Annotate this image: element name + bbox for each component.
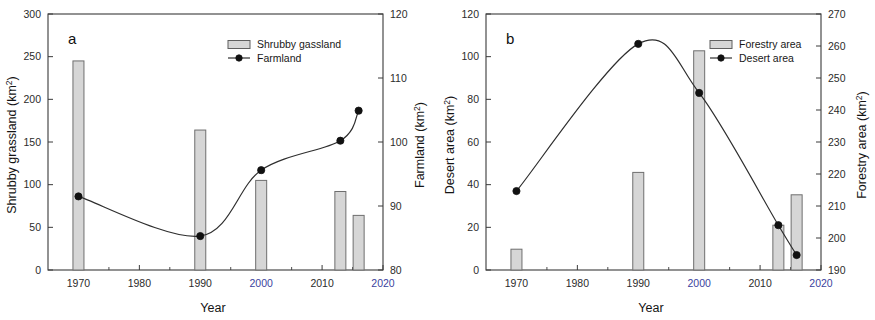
data-point-marker bbox=[513, 187, 520, 194]
x-tick-label: 1970 bbox=[505, 277, 529, 289]
x-tick-label: 1990 bbox=[189, 277, 213, 289]
legend-marker-desert-area bbox=[718, 55, 724, 61]
left-tick-label: 100 bbox=[461, 50, 479, 62]
right-tick-label: 230 bbox=[828, 136, 846, 148]
x-tick-label: 2020 bbox=[809, 277, 833, 289]
left-tick-label: 250 bbox=[23, 50, 41, 62]
panel-letter-b: b bbox=[506, 30, 514, 47]
data-point-marker bbox=[75, 193, 82, 200]
data-point-marker bbox=[775, 222, 782, 229]
panel-a-axes bbox=[48, 14, 383, 270]
right-tick-label: 190 bbox=[828, 264, 846, 276]
data-point-marker bbox=[337, 137, 344, 144]
right-axis-title-b-text: Forestry area (km bbox=[855, 100, 869, 199]
x-tick-label: 2000 bbox=[688, 277, 712, 289]
left-tick-label: 0 bbox=[473, 264, 479, 276]
legend-label-shrubby-gassland: Shrubby gassland bbox=[257, 38, 341, 50]
data-point-marker bbox=[197, 232, 204, 239]
right-tick-label: 90 bbox=[390, 200, 402, 212]
left-axis-title-b-close: ) bbox=[443, 96, 457, 100]
right-tick-label: 200 bbox=[828, 232, 846, 244]
line-series-path bbox=[516, 40, 796, 255]
svg-text:Shrubby grassland (km2): Shrubby grassland (km2) bbox=[4, 76, 19, 213]
figure-two-panel-charts: 1970198019902000201020200501001502002503… bbox=[0, 0, 875, 320]
x-tick-label: 1970 bbox=[67, 277, 91, 289]
svg-text:Desert area (km2): Desert area (km2) bbox=[442, 96, 457, 195]
svg-text:Farmland (km2): Farmland (km2) bbox=[412, 102, 427, 188]
left-tick-label: 60 bbox=[467, 136, 479, 148]
x-tick-label: 2010 bbox=[748, 277, 772, 289]
left-tick-label: 120 bbox=[461, 8, 479, 20]
bar bbox=[195, 130, 206, 270]
panel-a-bars bbox=[73, 61, 364, 270]
data-point-marker bbox=[696, 89, 703, 96]
left-tick-label: 0 bbox=[35, 264, 41, 276]
x-tick-label: 1980 bbox=[128, 277, 152, 289]
right-tick-label: 270 bbox=[828, 8, 846, 20]
left-axis-title-a-text: Shrubby grassland (km bbox=[5, 85, 19, 214]
x-tick-label: 2000 bbox=[250, 277, 274, 289]
right-axis-title-b-close: ) bbox=[855, 91, 869, 95]
right-tick-label: 80 bbox=[390, 264, 402, 276]
left-axis-title-a-close: ) bbox=[5, 76, 19, 80]
right-axis-title-a-text: Farmland (km bbox=[413, 111, 427, 188]
panel-a-right-axis-title: Farmland (km2) bbox=[412, 102, 427, 188]
right-axis-title-a-close: ) bbox=[413, 102, 427, 106]
left-tick-label: 50 bbox=[29, 221, 41, 233]
x-axis-title-a: Year bbox=[200, 301, 225, 315]
panel-a-svg: 1970198019902000201020200501001502002503… bbox=[0, 0, 437, 320]
legend-swatch-bar-a bbox=[228, 41, 250, 49]
left-tick-label: 100 bbox=[23, 178, 41, 190]
left-tick-label: 150 bbox=[23, 136, 41, 148]
legend-label-desert-area: Desert area bbox=[739, 52, 794, 64]
right-tick-label: 220 bbox=[828, 168, 846, 180]
right-tick-label: 240 bbox=[828, 104, 846, 116]
right-tick-label: 250 bbox=[828, 72, 846, 84]
bar bbox=[633, 172, 644, 270]
bar bbox=[353, 215, 364, 270]
panel-b-left-axis-title: Desert area (km2) bbox=[442, 96, 457, 195]
left-tick-label: 300 bbox=[23, 8, 41, 20]
right-tick-label: 100 bbox=[390, 136, 408, 148]
x-tick-label: 2010 bbox=[310, 277, 334, 289]
bar bbox=[694, 51, 705, 270]
panel-letter-a: a bbox=[68, 30, 77, 47]
left-tick-label: 20 bbox=[467, 221, 479, 233]
right-tick-label: 110 bbox=[390, 72, 407, 84]
left-tick-label: 40 bbox=[467, 178, 479, 190]
right-tick-label: 260 bbox=[828, 40, 846, 52]
chart-panel-b: 1970198019902000201020200204060801001201… bbox=[438, 0, 875, 320]
data-point-marker bbox=[635, 40, 642, 47]
bar bbox=[73, 61, 84, 270]
left-tick-label: 200 bbox=[23, 93, 41, 105]
panel-b-line-series bbox=[513, 40, 800, 259]
bar bbox=[335, 191, 346, 270]
right-tick-label: 120 bbox=[390, 8, 408, 20]
legend-swatch-bar-b bbox=[710, 41, 732, 49]
panel-b-svg: 1970198019902000201020200204060801001201… bbox=[438, 0, 875, 320]
panel-a-legend: Shrubby gassland Farmland bbox=[228, 38, 341, 64]
left-axis-title-b-text: Desert area (km bbox=[443, 105, 457, 195]
panel-a-line-series bbox=[75, 107, 362, 240]
svg-text:Forestry area (km2): Forestry area (km2) bbox=[854, 91, 869, 199]
right-tick-label: 210 bbox=[828, 200, 846, 212]
panel-b-right-axis-title: Forestry area (km2) bbox=[854, 91, 869, 199]
legend-label-forestry-area: Forestry area bbox=[739, 38, 802, 50]
x-tick-label: 1980 bbox=[566, 277, 590, 289]
x-axis-title-b: Year bbox=[638, 301, 663, 315]
data-point-marker bbox=[355, 107, 362, 114]
data-point-marker bbox=[793, 251, 800, 258]
bar bbox=[256, 180, 267, 270]
panel-a-left-axis-title: Shrubby grassland (km2) bbox=[4, 76, 19, 213]
x-tick-label: 1990 bbox=[627, 277, 651, 289]
line-series-path bbox=[78, 111, 358, 237]
data-point-marker bbox=[258, 167, 265, 174]
panel-b-legend: Forestry area Desert area bbox=[710, 38, 802, 64]
legend-label-farmland: Farmland bbox=[257, 52, 302, 64]
x-tick-label: 2020 bbox=[371, 277, 395, 289]
left-tick-label: 80 bbox=[467, 93, 479, 105]
legend-marker-farmland bbox=[236, 55, 242, 61]
panel-b-bars bbox=[511, 51, 802, 270]
chart-panel-a: 1970198019902000201020200501001502002503… bbox=[0, 0, 437, 320]
bar bbox=[511, 249, 522, 270]
